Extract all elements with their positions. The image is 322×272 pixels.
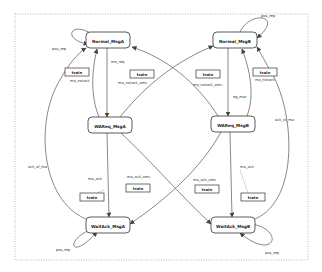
- edge-label: ma_req: [111, 60, 124, 64]
- action-train-2[interactable]: train: [130, 70, 154, 78]
- action-train-6[interactable]: train: [126, 184, 150, 192]
- edge-label: ma_ack_omc: [127, 175, 150, 179]
- action-train-8[interactable]: train: [241, 193, 265, 201]
- edges: [45, 18, 289, 247]
- state-waitack-msgb[interactable]: WaitAck_MsgB: [211, 217, 255, 233]
- edge-label: eg_mar: [233, 95, 247, 99]
- svg-text:Normal_MsgB: Normal_MsgB: [219, 39, 251, 44]
- action-train-1[interactable]: train: [65, 68, 89, 76]
- edge-label: pos_rep: [52, 47, 67, 51]
- edge-label: ma_notack_omc: [193, 83, 222, 87]
- svg-text:Normal_MsgA: Normal_MsgA: [92, 39, 125, 44]
- actions: train train train train train train trai…: [65, 68, 277, 201]
- svg-text:train: train: [72, 70, 83, 75]
- svg-text:train: train: [87, 195, 98, 200]
- edge-label: ma_notack: [255, 78, 276, 82]
- action-train-3[interactable]: train: [196, 70, 220, 78]
- action-links: [97, 170, 248, 193]
- edge-label: pos_rep: [56, 248, 71, 252]
- svg-text:WAReq_MsgB: WAReq_MsgB: [217, 123, 249, 128]
- svg-text:WaitAck_MsgB: WaitAck_MsgB: [216, 224, 250, 229]
- edge-label: ma_ack_omc: [193, 178, 216, 182]
- svg-text:train: train: [202, 187, 213, 192]
- svg-text:WAReq_MsgA: WAReq_MsgA: [94, 124, 126, 129]
- action-train-5[interactable]: train: [80, 193, 104, 201]
- svg-text:WaitAck_MsgA: WaitAck_MsgA: [91, 224, 126, 229]
- svg-text:train: train: [203, 72, 214, 77]
- edge-label: ma_notack_omc: [118, 81, 147, 85]
- svg-text:train: train: [248, 195, 259, 200]
- edge-label: ma_ack: [240, 165, 255, 169]
- state-wareq-msgb[interactable]: WAReq_MsgB: [211, 116, 255, 132]
- svg-text:train: train: [260, 70, 271, 75]
- state-diagram: Normal_MsgA Normal_MsgB WAReq_MsgA WAReq…: [0, 0, 322, 272]
- state-normal-msgb[interactable]: Normal_MsgB: [213, 32, 257, 48]
- edge-label: ack_of_ma: [28, 165, 47, 169]
- state-waitack-msga[interactable]: WaitAck_MsgA: [86, 217, 130, 233]
- svg-text:train: train: [137, 72, 148, 77]
- edge-label: ma_ack: [88, 177, 103, 181]
- action-train-7[interactable]: train: [195, 185, 219, 193]
- edge-label: pos_rep: [261, 14, 276, 18]
- state-wareq-msga[interactable]: WAReq_MsgA: [88, 117, 132, 133]
- action-train-4[interactable]: train: [253, 68, 277, 76]
- edge-label: ma_notack: [70, 79, 91, 83]
- edge-label: pos_rep: [265, 251, 280, 255]
- svg-text:train: train: [133, 186, 144, 191]
- edge-label: ack_of_ma: [275, 118, 294, 122]
- state-normal-msga[interactable]: Normal_MsgA: [86, 32, 130, 48]
